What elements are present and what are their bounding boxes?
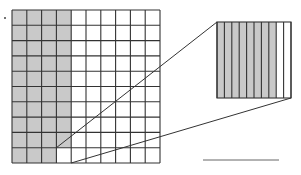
shaded-strip: [232, 22, 239, 98]
shaded-cell: [42, 102, 57, 117]
shaded-cell: [12, 10, 27, 25]
shaded-cell: [12, 148, 27, 163]
shaded-strip: [247, 22, 254, 98]
decimal-grid-diagram: [0, 0, 301, 175]
shaded-cell: [42, 25, 57, 40]
shaded-cell: [42, 132, 57, 147]
shaded-strip: [239, 22, 246, 98]
shaded-cell: [12, 132, 27, 147]
shaded-cell: [12, 41, 27, 56]
shaded-cell: [12, 117, 27, 132]
shaded-cell: [56, 10, 71, 25]
shaded-cell: [12, 87, 27, 102]
diagram-canvas: [0, 0, 301, 175]
shaded-cell: [27, 10, 42, 25]
shaded-cell: [27, 148, 42, 163]
shaded-cell: [42, 117, 57, 132]
shaded-cell: [42, 56, 57, 71]
shaded-cell: [27, 41, 42, 56]
shaded-cell: [56, 71, 71, 86]
shaded-strip: [217, 22, 224, 98]
shaded-cell: [12, 102, 27, 117]
shaded-cell: [56, 117, 71, 132]
shaded-strip: [224, 22, 231, 98]
shaded-cell: [56, 25, 71, 40]
shaded-cell: [27, 87, 42, 102]
shaded-strip: [261, 22, 268, 98]
shaded-cell: [42, 148, 57, 163]
shaded-cell: [27, 117, 42, 132]
shaded-cell: [56, 41, 71, 56]
shaded-cell: [56, 56, 71, 71]
shaded-cell: [42, 71, 57, 86]
shaded-strip: [254, 22, 261, 98]
shaded-strip: [269, 22, 276, 98]
shaded-cell: [27, 56, 42, 71]
shaded-cell: [12, 25, 27, 40]
shaded-cell: [42, 41, 57, 56]
shaded-cell: [27, 132, 42, 147]
shaded-cell: [42, 87, 57, 102]
connector-line-bottom: [71, 98, 291, 163]
shaded-cell: [27, 102, 42, 117]
shaded-cell: [27, 71, 42, 86]
shaded-cell: [56, 87, 71, 102]
shaded-cell: [12, 71, 27, 86]
bullet-marker: [4, 17, 6, 19]
shaded-cell: [27, 25, 42, 40]
shaded-cell: [42, 10, 57, 25]
shaded-cell: [12, 56, 27, 71]
shaded-cell: [56, 102, 71, 117]
